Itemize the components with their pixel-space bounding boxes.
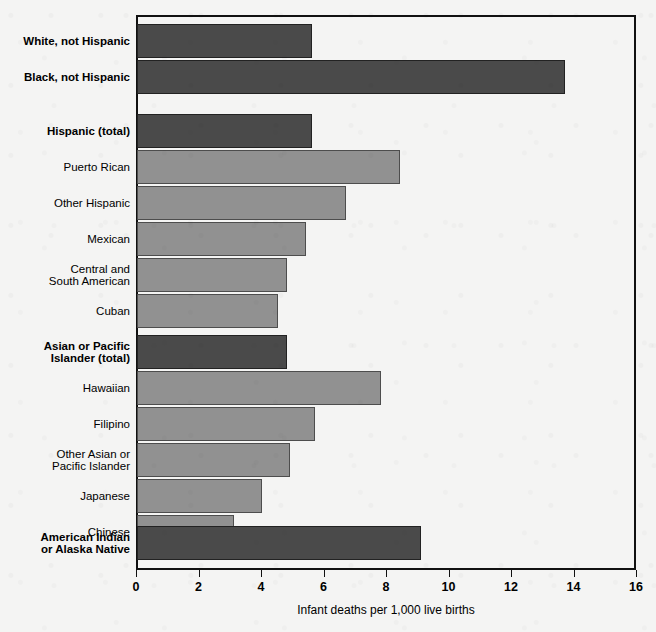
x-tick-mark — [511, 570, 512, 577]
x-axis-title: Infant deaths per 1,000 live births — [136, 603, 636, 617]
x-axis: 0246810121416 Infant deaths per 1,000 li… — [136, 570, 636, 632]
bar-row: Japanese — [0, 479, 656, 513]
category-label: Puerto Rican — [0, 161, 130, 174]
bar-row: Hispanic (total) — [0, 114, 656, 148]
bar-row: Puerto Rican — [0, 150, 656, 184]
bar — [137, 222, 306, 256]
x-tick-mark — [386, 570, 387, 577]
x-tick-label: 14 — [567, 580, 581, 594]
category-label: Other Asian or Pacific Islander — [0, 448, 130, 473]
bar-row: Other Hispanic — [0, 186, 656, 220]
bar-row: Black, not Hispanic — [0, 60, 656, 94]
bar-row: Cuban — [0, 294, 656, 328]
x-tick-label: 4 — [258, 580, 265, 594]
x-tick-mark — [574, 570, 575, 577]
bar — [137, 150, 400, 184]
bar — [137, 526, 421, 560]
category-label: Other Hispanic — [0, 197, 130, 210]
bar-row: Other Asian or Pacific Islander — [0, 443, 656, 477]
infant-mortality-bar-chart: White, not HispanicBlack, not HispanicHi… — [0, 0, 656, 632]
bar — [137, 443, 290, 477]
bar — [137, 479, 262, 513]
category-label: Asian or Pacific Islander (total) — [0, 340, 130, 365]
category-label: Mexican — [0, 233, 130, 246]
category-label: American Indian or Alaska Native — [0, 531, 130, 556]
x-tick-mark — [449, 570, 450, 577]
x-tick-label: 8 — [383, 580, 390, 594]
category-label: Black, not Hispanic — [0, 71, 130, 84]
bar-row: Central and South American — [0, 258, 656, 292]
bar-row: Hawaiian — [0, 371, 656, 405]
x-tick-mark — [136, 570, 137, 577]
category-label: Cuban — [0, 305, 130, 318]
bar — [137, 371, 381, 405]
x-tick-label: 2 — [195, 580, 202, 594]
category-label: Hawaiian — [0, 382, 130, 395]
bar-row: White, not Hispanic — [0, 24, 656, 58]
category-label: Central and South American — [0, 263, 130, 288]
x-tick-mark — [199, 570, 200, 577]
category-label: Hispanic (total) — [0, 125, 130, 138]
bar-row: Filipino — [0, 407, 656, 441]
bar — [137, 258, 287, 292]
bar-row: Mexican — [0, 222, 656, 256]
category-label: Japanese — [0, 490, 130, 503]
bar-row: Asian or Pacific Islander (total) — [0, 335, 656, 369]
x-tick-mark — [261, 570, 262, 577]
bar-row: American Indian or Alaska Native — [0, 526, 656, 560]
x-tick-label: 16 — [629, 580, 643, 594]
bar — [137, 407, 315, 441]
x-tick-label: 12 — [504, 580, 518, 594]
x-tick-label: 10 — [442, 580, 456, 594]
category-label: White, not Hispanic — [0, 35, 130, 48]
bar — [137, 24, 312, 58]
bar — [137, 335, 287, 369]
x-tick-mark — [636, 570, 637, 577]
category-label: Filipino — [0, 418, 130, 431]
x-tick-mark — [324, 570, 325, 577]
bar — [137, 186, 346, 220]
bar — [137, 294, 278, 328]
x-tick-label: 0 — [133, 580, 140, 594]
bar — [137, 114, 312, 148]
x-tick-label: 6 — [320, 580, 327, 594]
bar — [137, 60, 565, 94]
bar-rows-container: White, not HispanicBlack, not HispanicHi… — [0, 15, 656, 570]
